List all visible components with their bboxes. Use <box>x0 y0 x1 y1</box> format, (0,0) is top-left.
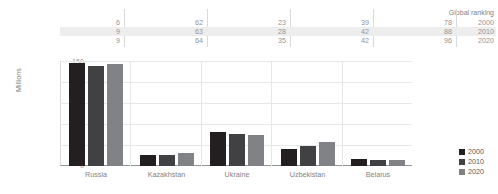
rank-row-label: 2020 <box>460 36 494 45</box>
legend-swatch-icon <box>459 149 465 155</box>
legend-label: 2010 <box>468 157 484 166</box>
legend-swatch-icon <box>459 169 465 175</box>
group-divider <box>130 61 131 166</box>
bar-uzbekistan-2020 <box>319 142 335 166</box>
bar-russia-2020 <box>107 64 123 166</box>
rank-value: 23 <box>211 18 286 27</box>
rank-value: 88 <box>377 27 452 36</box>
chart-figure: Global ranking 6 62 23 39 78 2000 9 63 2… <box>0 0 498 194</box>
rank-value: 28 <box>211 27 286 36</box>
y-axis-title: Millions <box>14 68 23 92</box>
legend-label: 2000 <box>468 147 484 156</box>
rank-value: 62 <box>128 18 203 27</box>
rank-value: 39 <box>294 18 369 27</box>
rank-value: 64 <box>128 36 203 45</box>
rank-value: 42 <box>294 36 369 45</box>
category-label-ukraine: Ukraine <box>202 170 272 179</box>
rank-value: 9 <box>60 27 120 36</box>
rank-value: 6 <box>60 18 120 27</box>
rank-value: 9 <box>60 36 120 45</box>
rank-row-label: 2010 <box>460 27 494 36</box>
category-label-uzbekistan: Uzbekistan <box>272 170 343 179</box>
legend-label: 2020 <box>468 167 484 176</box>
group-divider <box>201 61 202 166</box>
category-label-russia: Russia <box>61 170 131 179</box>
group-divider <box>271 61 272 166</box>
bar-uzbekistan-2010 <box>300 146 316 166</box>
rank-row-2010: 9 63 28 42 88 2010 <box>60 27 496 36</box>
bar-russia-2000 <box>69 63 85 166</box>
bar-ukraine-2020 <box>248 135 264 166</box>
rank-value: 42 <box>294 27 369 36</box>
global-ranking-table: Global ranking 6 62 23 39 78 2000 9 63 2… <box>60 9 496 47</box>
bar-russia-2010 <box>88 66 104 166</box>
rank-value: 63 <box>128 27 203 36</box>
category-label-kazakhstan: Kazakhstan <box>131 170 202 179</box>
bar-kazakhstan-2000 <box>140 155 156 166</box>
bar-belarus-2020 <box>389 160 405 166</box>
bar-ukraine-2010 <box>229 134 245 166</box>
rank-row-label: 2000 <box>460 18 494 27</box>
legend-swatch-icon <box>459 159 465 165</box>
bar-ukraine-2000 <box>210 132 226 166</box>
bar-kazakhstan-2010 <box>159 155 175 166</box>
rank-row-2000: 6 62 23 39 78 2000 <box>60 18 496 27</box>
rank-value: 35 <box>211 36 286 45</box>
rank-value: 78 <box>377 18 452 27</box>
rank-value: 96 <box>377 36 452 45</box>
bar-belarus-2000 <box>351 159 367 166</box>
bar-kazakhstan-2020 <box>178 153 194 166</box>
plot-area <box>60 61 412 166</box>
category-label-belarus: Belarus <box>343 170 413 179</box>
bar-belarus-2010 <box>370 160 386 166</box>
gridline-150 <box>60 61 412 62</box>
group-divider <box>342 61 343 166</box>
bar-uzbekistan-2000 <box>281 149 297 166</box>
rank-row-2020: 9 64 35 42 96 2020 <box>60 36 496 45</box>
